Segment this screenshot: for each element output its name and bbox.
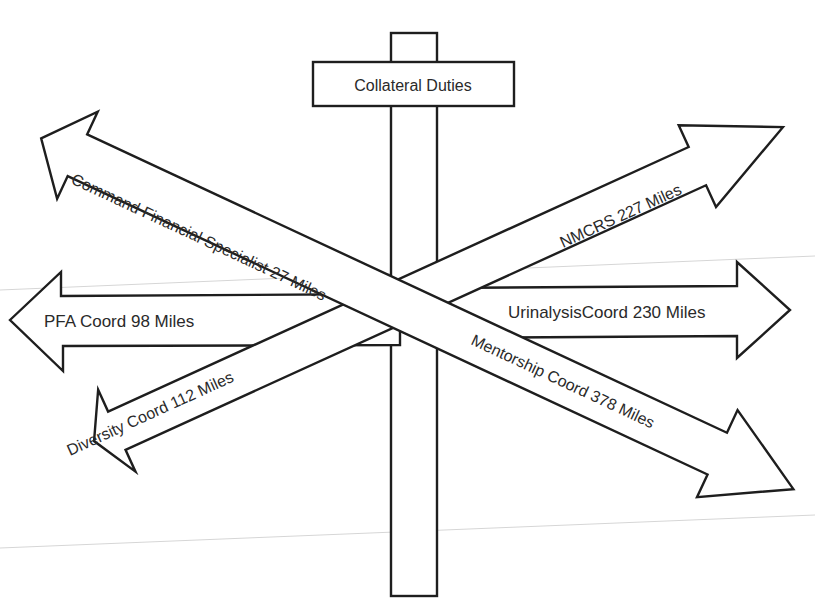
label-group-mentorship: Mentorship Coord 378 Miles (469, 331, 658, 431)
signpost-diagram: PFA Coord 98 Miles UrinalysisCoord 230 M… (0, 0, 815, 614)
arrow-mentorship-label: Mentorship Coord 378 Miles (469, 331, 658, 431)
arrow-pfa-label: PFA Coord 98 Miles (44, 312, 194, 331)
title-sign-label: Collateral Duties (354, 77, 471, 94)
arrow-urinalysis-label: UrinalysisCoord 230 Miles (508, 303, 705, 322)
title-sign: Collateral Duties (313, 62, 514, 106)
arrow-diversity-label: Diversity Coord 112 Miles (64, 368, 236, 459)
label-group-diversity: Diversity Coord 112 Miles (64, 368, 236, 459)
